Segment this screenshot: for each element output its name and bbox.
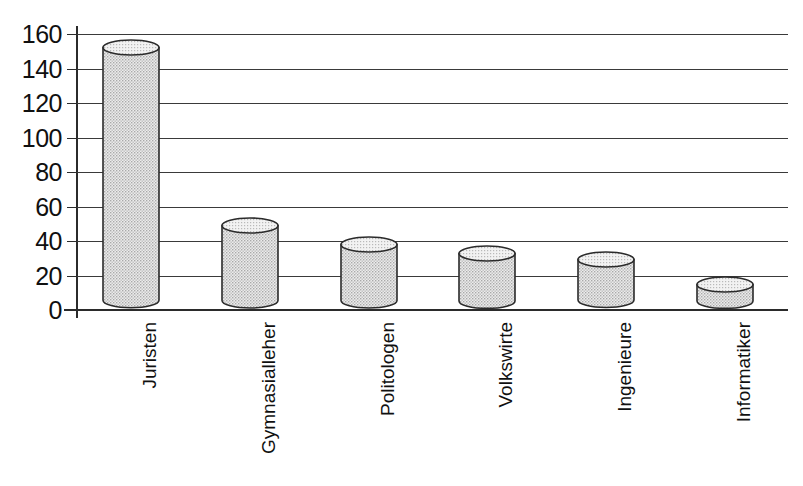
x-label-politologen: Politologen (378, 322, 397, 416)
y-tick-label-0: 0 (49, 298, 62, 323)
y-tick-label-20: 20 (35, 263, 62, 288)
x-label-volkswirte: Volkswirte (496, 322, 515, 408)
x-label-juristen: Juristen (140, 322, 159, 389)
x-label-ingenieure: Ingenieure (615, 322, 634, 412)
x-label-gymnasialleher: Gymnasialleher (259, 322, 278, 454)
y-axis-tick-labels: 160140120100806040200 (0, 0, 62, 486)
y-tick-label-60: 60 (35, 194, 62, 219)
y-tick-label-40: 40 (35, 229, 62, 254)
x-axis-category-labels: JuristenGymnasialleherPolitologenVolkswi… (76, 0, 788, 486)
y-tick-label-100: 100 (22, 125, 62, 150)
bar-chart: 160140120100806040200 JuristenGymnasiall… (0, 0, 803, 486)
y-tick-label-80: 80 (35, 160, 62, 185)
y-tick-label-160: 160 (22, 22, 62, 47)
y-tick-label-120: 120 (22, 91, 62, 116)
y-tick-label-140: 140 (22, 56, 62, 81)
x-label-informatiker: Informatiker (734, 322, 753, 422)
